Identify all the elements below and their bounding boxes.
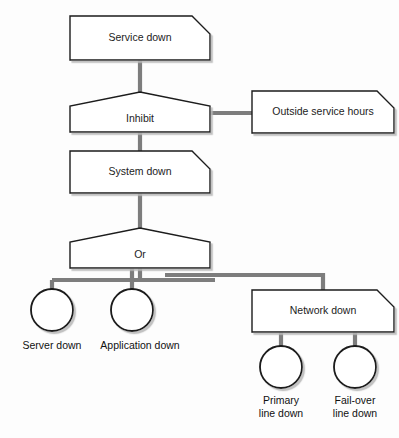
fault-tree-diagram: Service downInhibitOutside service hours… [0, 0, 399, 438]
connector-or-bus-right [165, 275, 323, 290]
event-server-down[interactable]: Server down [23, 289, 82, 351]
node-service-down[interactable]: Service down [70, 16, 210, 60]
node-or-gate[interactable]: Or [70, 228, 210, 268]
basic-event-circle [260, 346, 302, 388]
event-primary-line-down[interactable]: Primaryline down [259, 346, 304, 419]
event-failover-line-down[interactable]: Fail-overline down [333, 346, 378, 419]
basic-event-circle [111, 289, 153, 331]
event-label: Primaryline down [259, 394, 304, 419]
event-application-down[interactable]: Application down [100, 289, 180, 351]
fault-tree-svg: Service downInhibitOutside service hours… [0, 0, 399, 438]
node-inhibit[interactable]: Inhibit [70, 92, 210, 132]
basic-event-circle [31, 289, 73, 331]
node-system-down[interactable]: System down [70, 151, 210, 193]
event-label: Server down [23, 339, 82, 351]
event-label: Application down [100, 339, 180, 351]
basic-event-circle [334, 346, 376, 388]
node-label: Inhibit [126, 112, 154, 124]
node-outside-service-hours[interactable]: Outside service hours [252, 91, 394, 133]
node-label: Or [134, 248, 146, 260]
node-label: System down [108, 165, 171, 177]
event-label: Fail-overline down [333, 394, 378, 419]
node-label: Network down [290, 304, 357, 316]
node-label: Service down [108, 31, 171, 43]
node-layer: Service downInhibitOutside service hours… [70, 16, 394, 332]
node-label: Outside service hours [272, 105, 374, 117]
node-network-down[interactable]: Network down [252, 290, 394, 332]
